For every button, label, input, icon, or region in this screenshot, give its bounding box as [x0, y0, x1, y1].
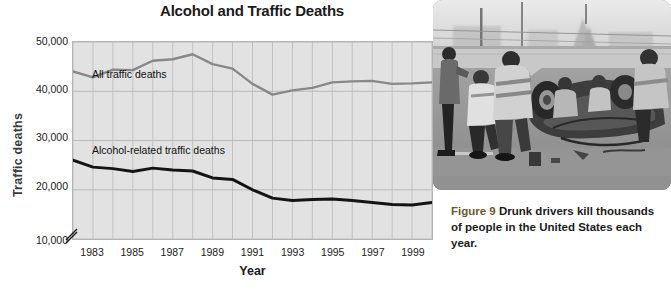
y-tick-label: 50,000: [6, 35, 68, 47]
crash-scene-photo: [433, 0, 671, 190]
figure-container: Alcohol and Traffic Deaths 50,000 40,000…: [0, 0, 671, 295]
figure-caption: Figure 9 Drunk drivers kill thousands of…: [451, 203, 663, 251]
series-label-alcohol-related-traffic-deaths: Alcohol-related traffic deaths: [92, 144, 225, 156]
x-tick-label: 1987: [161, 246, 184, 258]
x-tick-label: 1999: [401, 246, 424, 258]
x-tick-label: 1989: [201, 246, 224, 258]
chart-container: Alcohol and Traffic Deaths 50,000 40,000…: [0, 0, 440, 295]
x-tick-label: 1997: [361, 246, 384, 258]
crash-scene-photo-graphic: [433, 0, 671, 190]
figure-caption-number: Figure 9: [451, 205, 496, 217]
x-tick-label: 1983: [80, 246, 103, 258]
chart-title: Alcohol and Traffic Deaths: [72, 2, 432, 19]
x-tick-label: 1985: [120, 246, 143, 258]
series-label-all-traffic-deaths: All traffic deaths: [92, 68, 167, 80]
y-axis-label: Traffic deaths: [11, 100, 25, 210]
y-tick-label: 10,000: [6, 234, 68, 246]
axis-break-icon: [64, 226, 80, 244]
x-tick-label: 1993: [281, 246, 304, 258]
x-tick-label: 1991: [241, 246, 264, 258]
x-axis-label: Year: [72, 264, 433, 278]
x-tick-label: 1995: [321, 246, 344, 258]
y-tick-label: 40,000: [6, 83, 68, 95]
